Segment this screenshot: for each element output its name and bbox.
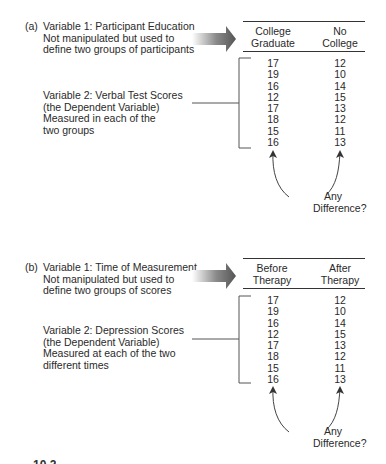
curved-arrow-right [326,152,340,195]
gradient-arrow-icon [192,26,236,52]
figure-caption-fragment: 10.2 [33,459,56,464]
bracket [239,58,251,148]
diagram-graphics [0,0,386,464]
curved-arrow-left [273,152,289,197]
curved-arrow-right [326,388,340,430]
curved-arrow-left [273,388,289,432]
gradient-arrow-icon [192,263,236,289]
bracket [239,296,251,383]
